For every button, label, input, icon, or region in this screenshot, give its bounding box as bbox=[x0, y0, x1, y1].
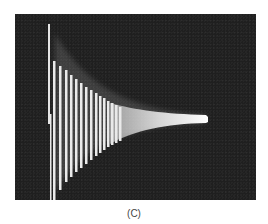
oscilloscope-photo bbox=[15, 14, 256, 200]
damped-oscillation-trace bbox=[15, 14, 256, 200]
figure-caption: (C) bbox=[0, 208, 268, 219]
